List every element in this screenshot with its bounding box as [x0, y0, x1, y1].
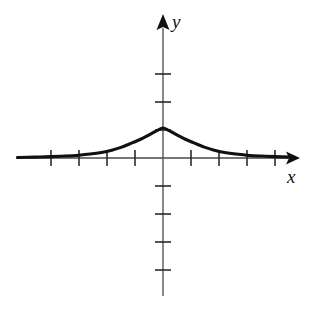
y-axis-label: y	[172, 12, 180, 31]
coordinate-plot	[0, 0, 311, 314]
graph-figure: y x	[0, 0, 311, 314]
bell-curve	[17, 128, 294, 157]
y-axis-arrowhead-icon	[157, 14, 170, 30]
x-axis-label: x	[287, 167, 295, 186]
